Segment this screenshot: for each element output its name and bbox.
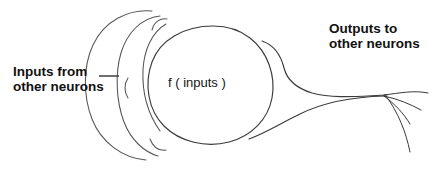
soma-function-label: f ( inputs ) — [168, 75, 226, 90]
axon-terminal-branch-upper — [384, 92, 428, 95]
inputs-label-line2: other neurons — [13, 79, 104, 94]
axon-terminals-group — [384, 92, 428, 152]
axon-terminal-branch-long — [386, 96, 410, 152]
neuron-diagram-canvas: Inputs fromother neurons Outputs toother… — [0, 0, 444, 175]
outputs-label-line2: other neurons — [329, 36, 420, 51]
axon-terminal-branch-middle — [384, 96, 421, 110]
outputs-label-line1: Outputs to — [329, 21, 397, 36]
inputs-label: Inputs fromother neurons — [13, 64, 104, 94]
dendrite-arc-inner — [143, 24, 166, 131]
dendrite-hook-lower — [150, 139, 166, 150]
axon-lower-edge — [249, 96, 385, 139]
dendrite-hook-middle — [125, 78, 128, 98]
inputs-label-line1: Inputs from — [13, 64, 87, 79]
dendrite-arc-second — [117, 16, 160, 156]
axon-terminal-branch-lower — [384, 96, 410, 124]
outputs-label: Outputs toother neurons — [329, 21, 420, 51]
